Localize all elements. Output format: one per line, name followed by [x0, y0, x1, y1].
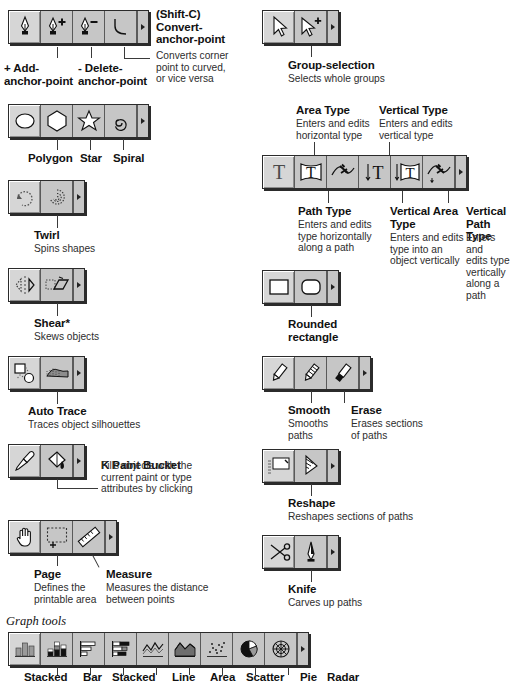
leader-line [92, 555, 99, 568]
path-type-icon[interactable] [327, 156, 359, 188]
delete-anchor-point-icon[interactable] [73, 11, 105, 43]
triangle-right-icon [331, 24, 335, 30]
pen-tools-palette[interactable] [8, 10, 149, 44]
leader-line [57, 303, 58, 316]
erase-desc: Erases sections of paths [351, 418, 435, 441]
line-graph-icon[interactable] [137, 633, 169, 665]
leader-line [57, 215, 58, 228]
autotrace-tools-palette[interactable] [8, 356, 85, 390]
knife-icon[interactable] [295, 536, 327, 568]
spiral-label: Spiral [113, 152, 144, 165]
direct-selection-icon[interactable] [263, 11, 295, 43]
column-graph-icon[interactable] [9, 633, 41, 665]
bar-graph-icon[interactable] [73, 633, 105, 665]
knife-tools-palette[interactable] [262, 535, 339, 569]
pen-icon[interactable] [9, 11, 41, 43]
selection-tools-palette[interactable] [262, 10, 339, 44]
pencil-tools-palette[interactable] [262, 356, 371, 390]
group-selection-icon[interactable] [295, 11, 327, 43]
vertical-type-icon[interactable]: T [359, 156, 391, 188]
scatter-graph-label: Scatter [246, 671, 284, 684]
convert-anchor-point-label: (Shift-C) Convert- anchor-point [156, 8, 254, 46]
add-anchor-point-label: + Add- anchor-point [4, 62, 76, 87]
stacked-column-graph-icon[interactable] [41, 633, 73, 665]
smooth-icon[interactable] [295, 357, 327, 389]
scatter-graph-icon[interactable] [201, 633, 233, 665]
eyedropper-icon[interactable] [9, 445, 41, 477]
shear-tools-flyout-arrow[interactable] [73, 269, 84, 301]
stacked-bar-graph-icon[interactable] [105, 633, 137, 665]
area-type-icon[interactable]: T [295, 156, 327, 188]
scale-icon[interactable] [263, 450, 295, 482]
path-type-desc: Enters and edits type horizontally along… [298, 219, 390, 254]
vertical-area-type-label: Vertical Area Type [390, 205, 462, 230]
paint-bucket-icon[interactable] [41, 445, 73, 477]
auto-trace-icon[interactable] [41, 357, 73, 389]
convert-anchor-point-icon[interactable] [105, 11, 137, 43]
measure-icon[interactable] [73, 521, 105, 553]
spiral-icon[interactable] [105, 105, 137, 137]
leader-line [57, 488, 98, 489]
polygon-icon[interactable] [41, 105, 73, 137]
page-measure-tools-flyout-arrow[interactable] [105, 521, 116, 553]
shear-icon[interactable] [41, 269, 73, 301]
radar-graph-icon[interactable] [265, 633, 297, 665]
triangle-right-icon [109, 534, 113, 540]
pencil-tools-flyout-arrow[interactable] [359, 357, 370, 389]
add-anchor-point-icon[interactable] [41, 11, 73, 43]
type-tools-palette[interactable]: T T T T [262, 155, 467, 189]
path-type-label: Path Type [298, 205, 351, 218]
knife-tools-flyout-arrow[interactable] [327, 536, 338, 568]
scissors-icon[interactable] [263, 536, 295, 568]
paintbucket-tools-palette[interactable] [8, 444, 85, 478]
pen-tools-flyout-arrow[interactable] [137, 11, 148, 43]
shear-tools-palette[interactable] [8, 268, 85, 302]
graph-tools-flyout-arrow[interactable] [297, 633, 308, 665]
vertical-path-type-icon[interactable] [423, 156, 455, 188]
leader-line [311, 391, 312, 403]
erase-icon[interactable] [327, 357, 359, 389]
shape-tools-flyout-arrow[interactable] [137, 105, 148, 137]
star-icon[interactable] [73, 105, 105, 137]
triangle-right-icon [141, 118, 145, 124]
area-graph-icon[interactable] [169, 633, 201, 665]
pencil-icon[interactable] [263, 357, 295, 389]
leader-line [311, 46, 312, 57]
type-tools-flyout-arrow[interactable] [455, 156, 466, 188]
type-icon[interactable]: T [263, 156, 295, 188]
reshape-tools-flyout-arrow[interactable] [327, 450, 338, 482]
reshape-icon[interactable] [295, 450, 327, 482]
hand-icon[interactable] [9, 521, 41, 553]
rectangle-tools-palette[interactable] [262, 270, 339, 304]
rectangle-icon[interactable] [263, 271, 295, 303]
graph-tools-palette[interactable] [8, 632, 309, 666]
rotate-icon[interactable] [9, 181, 41, 213]
shape-tools-palette[interactable] [8, 104, 149, 138]
rounded-rectangle-icon[interactable] [295, 271, 327, 303]
autotrace-tools-flyout-arrow[interactable] [73, 357, 84, 389]
reshape-tools-palette[interactable] [262, 449, 339, 483]
ellipse-icon[interactable] [9, 105, 41, 137]
pie-graph-icon[interactable] [233, 633, 265, 665]
polygon-label: Polygon [28, 152, 73, 165]
area-graph-label: Area [210, 671, 235, 684]
star-label: Star [80, 152, 102, 165]
page-measure-tools-palette[interactable] [8, 520, 117, 554]
radar-graph-label: Radar [327, 671, 359, 684]
auto-trace-desc: Traces object silhouettes [28, 419, 140, 431]
svg-text:T: T [272, 161, 284, 183]
paintbucket-tools-flyout-arrow[interactable] [73, 445, 84, 477]
vertical-area-type-icon[interactable]: T [391, 156, 423, 188]
twirl-tools-palette[interactable] [8, 180, 85, 214]
leader-line [57, 391, 58, 404]
twirl-icon[interactable] [41, 181, 73, 213]
page-icon[interactable] [41, 521, 73, 553]
twirl-tools-flyout-arrow[interactable] [73, 181, 84, 213]
stacked-column-graph-label: Stacked [24, 671, 67, 684]
delete-anchor-point-label: - Delete- anchor-point [78, 62, 150, 87]
rectangle-tools-flyout-arrow[interactable] [327, 271, 338, 303]
selection-tools-flyout-arrow[interactable] [327, 11, 338, 43]
reflect-icon[interactable] [9, 269, 41, 301]
leader-line [311, 570, 312, 582]
blend-icon[interactable] [9, 357, 41, 389]
